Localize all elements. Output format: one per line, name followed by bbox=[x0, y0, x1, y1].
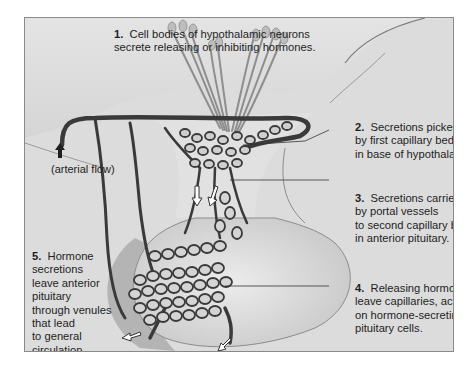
label-5-line-7: to general bbox=[32, 330, 112, 343]
label-2: 2. Secretions picked up by first capilla… bbox=[355, 121, 454, 161]
label-4-line-4: pituitary cells. bbox=[355, 322, 454, 335]
label-5-line-8: circulation. bbox=[32, 344, 112, 352]
label-4-line-1: Releasing hormones bbox=[371, 282, 454, 294]
label-3-line-1: Secretions carried bbox=[371, 192, 454, 204]
label-3-line-4: in anterior pituitary. bbox=[355, 232, 454, 245]
diagram-frame: 1. Cell bodies of hypothalamic neurons s… bbox=[24, 17, 454, 352]
label-2-line-2: by first capillary bed bbox=[355, 134, 454, 147]
label-5-line-4: pituitary bbox=[32, 290, 112, 303]
label-1-line-2: secrete releasing or inhibiting hormones… bbox=[114, 41, 315, 54]
label-5-line-5: through venules bbox=[32, 304, 112, 317]
label-5: 5. Hormone secretions leave anterior pit… bbox=[32, 250, 112, 352]
label-3: 3. Secretions carried by portal vessels … bbox=[355, 192, 454, 246]
label-5-line-1: Hormone bbox=[48, 250, 94, 262]
label-4: 4. Releasing hormones leave capillaries,… bbox=[355, 282, 454, 336]
label-4-number: 4. bbox=[355, 282, 364, 294]
arterial-flow-label: (arterial flow) bbox=[51, 163, 115, 176]
label-2-line-1: Secretions picked up bbox=[371, 121, 454, 133]
label-5-number: 5. bbox=[32, 250, 41, 262]
label-1-line-1: Cell bodies of hypothalamic neurons bbox=[130, 28, 310, 40]
label-2-line-3: in base of hypothalamus. bbox=[355, 148, 454, 161]
label-3-number: 3. bbox=[355, 192, 364, 204]
label-1-number: 1. bbox=[114, 28, 123, 40]
label-3-line-2: by portal vessels bbox=[355, 205, 454, 218]
label-5-line-3: leave anterior bbox=[32, 277, 112, 290]
label-5-line-6: that lead bbox=[32, 317, 112, 330]
label-3-line-3: to second capillary bed, bbox=[355, 219, 454, 232]
label-4-line-2: leave capillaries, act bbox=[355, 295, 454, 308]
label-5-line-2: secretions bbox=[32, 263, 112, 276]
label-1: 1. Cell bodies of hypothalamic neurons s… bbox=[114, 28, 315, 55]
label-2-number: 2. bbox=[355, 121, 364, 133]
anterior-pituitary bbox=[133, 218, 350, 347]
label-4-line-3: on hormone-secreting bbox=[355, 309, 454, 322]
